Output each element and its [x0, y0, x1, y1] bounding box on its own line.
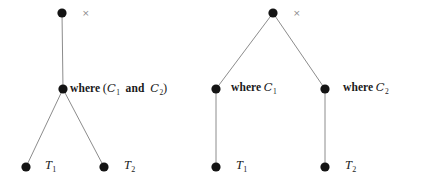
left-leaf-node-t1: [21, 162, 30, 171]
left-root-node: [57, 8, 66, 17]
right-leaf-node-t1: [211, 162, 220, 171]
right-leaf-node-t2: [320, 162, 329, 171]
edge-root-to-where-c1: [216, 13, 273, 89]
edge-root-to-where: [62, 13, 63, 89]
right-where-c1-node: [211, 84, 220, 93]
right-root-node: [268, 8, 277, 17]
right-tree: [211, 8, 329, 171]
tree-diagram-canvas: [0, 0, 431, 186]
tree-transformation-figure: × where (C1 and C2) T1 T2 × where C1 whe…: [0, 0, 431, 186]
left-where-node: [58, 84, 67, 93]
edge-root-to-where-c2: [273, 13, 325, 89]
edge-where-to-subtree-t2: [63, 89, 104, 167]
left-leaf-node-t2: [99, 162, 108, 171]
right-where-c2-node: [320, 84, 329, 93]
edge-where-to-subtree-t1: [26, 89, 63, 167]
left-tree: [21, 8, 108, 171]
